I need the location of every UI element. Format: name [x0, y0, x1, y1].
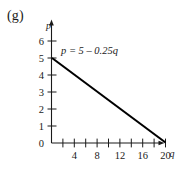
- y-tick-label-5: 5: [39, 53, 44, 64]
- demand-line: [52, 58, 166, 143]
- x-tick-label-4: 4: [72, 150, 78, 161]
- y-tick-labels: 6 5 4 3 2 1 0: [39, 36, 45, 149]
- y-axis-label: p: [45, 20, 51, 31]
- axes-group: [49, 20, 164, 146]
- y-tick-label-2: 2: [39, 104, 44, 115]
- x-axis-label: q: [170, 148, 175, 159]
- equation-annotation: p = 5 – 0.25q: [60, 45, 118, 56]
- x-tick-label-16: 16: [137, 150, 148, 161]
- figure-container: (g): [0, 0, 179, 169]
- x-tick-label-8: 8: [94, 150, 99, 161]
- x-tick-labels: 4 8 12 16 20: [72, 150, 171, 161]
- y-tick-label-6: 6: [39, 36, 44, 47]
- y-tick-label-0: 0: [39, 138, 44, 149]
- x-tick-label-12: 12: [115, 150, 126, 161]
- y-tick-label-3: 3: [39, 87, 44, 98]
- y-tick-label-1: 1: [39, 121, 44, 132]
- supply-demand-line-chart: 6 5 4 3 2 1 0 4 8 12 16 20 p q p = 5 – 0…: [0, 0, 179, 169]
- y-tick-label-4: 4: [39, 70, 45, 81]
